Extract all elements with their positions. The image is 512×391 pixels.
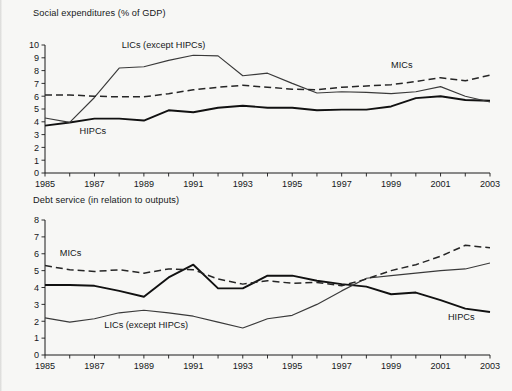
series-line-hipcs [45, 96, 490, 125]
y-tick-label: 7 [34, 232, 39, 242]
y-tick-label: 8 [34, 215, 39, 225]
chart-title-debt: Debt service (in relation to outputs) [33, 195, 179, 205]
x-tick-label: 1987 [84, 179, 104, 188]
series-label-hipcs: HIPCs [80, 126, 107, 136]
y-tick-label: 8 [34, 66, 39, 76]
x-tick-label: 2003 [480, 179, 500, 188]
chart-title-social: Social expenditures (% of GDP) [33, 8, 166, 18]
y-tick-label: 1 [34, 156, 39, 166]
y-tick-label: 3 [34, 130, 39, 140]
chart-svg-debt: 0123456781985198719891991199319951997199… [0, 195, 512, 385]
series-label-hipcs: HIPCs [448, 312, 475, 322]
y-tick-label: 10 [29, 40, 39, 50]
chart-svg-social: 0123456789101985198719891991199319951997… [0, 8, 512, 188]
chart-social-expenditures: Social expenditures (% of GDP) 012345678… [0, 8, 512, 188]
x-tick-label: 1995 [282, 179, 302, 188]
x-tick-label: 1991 [183, 361, 203, 371]
x-tick-label: 1985 [35, 179, 55, 188]
x-tick-label: 1993 [233, 179, 253, 188]
y-tick-label: 4 [34, 283, 39, 293]
chart-debt-service: Debt service (in relation to outputs) 01… [0, 195, 512, 385]
y-tick-label: 6 [34, 249, 39, 259]
x-tick-label: 2001 [430, 179, 450, 188]
x-tick-label: 2003 [480, 361, 500, 371]
y-tick-label: 0 [34, 350, 39, 360]
x-tick-label: 1993 [233, 361, 253, 371]
x-tick-label: 1985 [35, 361, 55, 371]
series-line-lics-except-hipcs [45, 55, 490, 122]
figure-page: Social expenditures (% of GDP) 012345678… [0, 0, 512, 391]
x-tick-label: 1999 [381, 179, 401, 188]
y-tick-label: 0 [34, 168, 39, 178]
x-tick-label: 2001 [430, 361, 450, 371]
x-tick-label: 1999 [381, 361, 401, 371]
y-tick-label: 1 [34, 333, 39, 343]
series-line-mics [45, 75, 490, 97]
series-label-lics-except-hipcs: LICs (except HIPCs) [122, 40, 206, 50]
y-tick-label: 2 [34, 143, 39, 153]
series-label-mics: MICs [60, 248, 82, 258]
y-tick-label: 7 [34, 79, 39, 89]
x-tick-label: 1991 [183, 179, 203, 188]
y-tick-label: 5 [34, 266, 39, 276]
series-line-hipcs [45, 265, 490, 312]
x-tick-label: 1997 [332, 179, 352, 188]
series-label-lics-except-hipcs: LICs (except HIPCs) [104, 320, 188, 330]
series-label-mics: MICs [391, 60, 413, 70]
x-tick-label: 1989 [134, 361, 154, 371]
y-tick-label: 9 [34, 53, 39, 63]
y-tick-label: 4 [34, 117, 39, 127]
y-tick-label: 5 [34, 104, 39, 114]
x-tick-label: 1997 [332, 361, 352, 371]
series-line-mics [45, 245, 490, 286]
x-tick-label: 1989 [134, 179, 154, 188]
y-tick-label: 2 [34, 317, 39, 327]
y-tick-label: 3 [34, 300, 39, 310]
x-tick-label: 1987 [84, 361, 104, 371]
y-tick-label: 6 [34, 92, 39, 102]
x-tick-label: 1995 [282, 361, 302, 371]
